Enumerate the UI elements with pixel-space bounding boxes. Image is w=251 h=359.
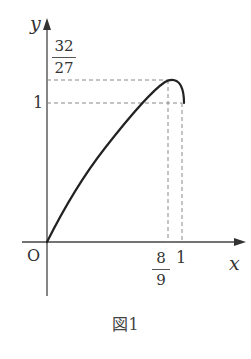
x-tick-one: 1: [176, 250, 186, 266]
x-axis-arrow-icon: [234, 238, 246, 246]
y-tick-numerator: 32: [52, 38, 76, 55]
x-axis-label: x: [229, 254, 240, 273]
y-axis-arrow-icon: [43, 18, 51, 30]
y-axis-label: y: [30, 14, 41, 33]
x-tick-8-9: 8 9: [152, 250, 170, 289]
figure-caption: 図1: [0, 311, 251, 335]
fraction-bar: [152, 269, 170, 270]
fraction-bar: [52, 57, 76, 58]
x-tick-denominator: 9: [152, 272, 170, 289]
y-tick-32-27: 32 27: [52, 38, 76, 77]
origin-label: O: [27, 248, 40, 264]
graph-canvas: [0, 0, 251, 359]
y-tick-one: 1: [33, 95, 43, 111]
y-tick-denominator: 27: [52, 60, 76, 77]
x-tick-numerator: 8: [152, 250, 170, 267]
function-curve: [47, 80, 184, 242]
